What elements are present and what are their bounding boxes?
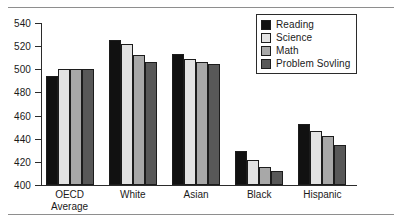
bar: [334, 145, 346, 186]
bar: [145, 62, 157, 185]
y-axis-tick: [35, 185, 41, 186]
cut-off-caption: [10, 0, 394, 4]
legend-label: Reading: [276, 19, 314, 30]
bar: [247, 160, 259, 185]
y-axis-tick-label: 480: [0, 87, 31, 98]
figure-bottom-rule: [8, 214, 394, 215]
bar-group: [104, 23, 167, 185]
legend-item[interactable]: Math: [261, 44, 350, 57]
y-axis-tick-label: 520: [0, 41, 31, 52]
bar: [259, 167, 271, 186]
bar: [298, 124, 310, 185]
figure-top-rule: [8, 7, 394, 8]
legend-item[interactable]: Science: [261, 31, 350, 44]
chart-legend: ReadingScienceMathProblem Sovling: [256, 14, 357, 74]
bar: [184, 59, 196, 185]
bar: [310, 131, 322, 185]
bar: [70, 69, 82, 185]
y-axis-tick-label: 420: [0, 156, 31, 167]
y-axis-tick-label: 440: [0, 133, 31, 144]
bar: [322, 136, 334, 185]
bar: [172, 54, 184, 185]
legend-item[interactable]: Reading: [261, 18, 350, 31]
y-axis-tick-label: 460: [0, 110, 31, 121]
bar: [235, 151, 247, 185]
x-axis-category-label: Hispanic: [282, 189, 362, 201]
legend-item[interactable]: Problem Sovling: [261, 57, 350, 70]
x-axis-line: [41, 185, 357, 186]
bar: [82, 69, 94, 185]
bar: [133, 55, 145, 185]
bar: [46, 76, 58, 185]
y-axis-tick-label: 400: [0, 180, 31, 191]
bar: [208, 64, 220, 186]
y-axis-tick-label: 500: [0, 64, 31, 75]
bar: [271, 171, 283, 185]
legend-label: Math: [276, 45, 299, 56]
legend-label: Problem Sovling: [276, 58, 350, 69]
legend-swatch-icon: [261, 46, 271, 56]
figure-container: 400420440460480500520540 OECDAverageWhit…: [0, 0, 402, 223]
y-axis-tick-label: 540: [0, 18, 31, 29]
bar: [121, 44, 133, 185]
legend-swatch-icon: [261, 33, 271, 43]
bar: [58, 69, 70, 185]
bar: [109, 40, 121, 185]
bar: [196, 62, 208, 185]
bar-group: [167, 23, 230, 185]
legend-swatch-icon: [261, 59, 271, 69]
legend-label: Science: [276, 32, 312, 43]
bar-group: [41, 23, 104, 185]
x-axis-category-line: Average: [30, 201, 110, 213]
legend-swatch-icon: [261, 20, 271, 30]
x-axis-category-line: Hispanic: [282, 189, 362, 201]
